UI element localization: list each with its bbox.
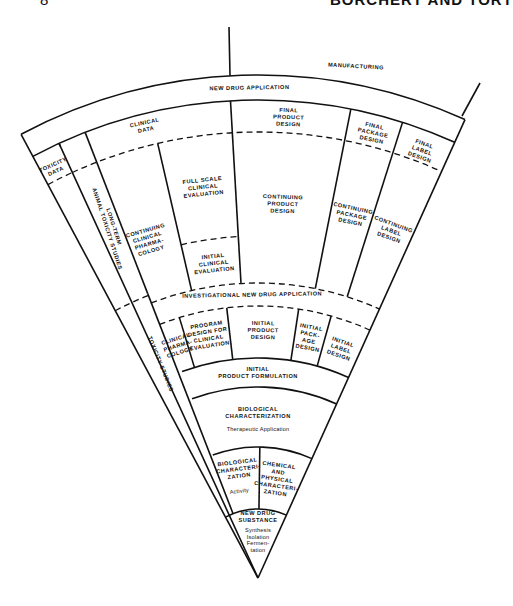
new-drug-substance-label: NEW DRUGSUBSTANCE <box>239 510 278 523</box>
initial-product-formulation-label: INITIALPRODUCT FORMULATION <box>218 366 298 379</box>
program-design-label: PROGRAMDESIGN FORCLINICALEVALUATION <box>186 319 230 352</box>
initial-row-divider-4 <box>317 316 331 366</box>
initial-product-design-label-line: DESIGN <box>251 334 276 340</box>
investigational-new-drug-application-label: INVESTIGATIONAL NEW DRUG APPLICATION <box>182 290 322 298</box>
therapeutic-application-label-line: Therapeutic Application <box>227 426 290 432</box>
activity-label: Activity <box>229 487 249 495</box>
synthesis-isolation-fermentation-label-line: tation <box>251 547 266 553</box>
initial-product-formulation-label-line: PRODUCT FORMULATION <box>218 373 298 379</box>
continuing-product-design-label-line: PRODUCT <box>267 200 298 207</box>
synthesis-isolation-fermentation-label-line: Isolation <box>247 534 270 540</box>
diagram-lines <box>21 27 480 578</box>
biological-characterization-activity-label: BIOLOGICALCHARACTERI-ZATION <box>215 456 261 481</box>
final-product-design-label-line: FINAL <box>279 107 298 114</box>
synthesis-isolation-fermentation-label-line: Fermen- <box>247 540 270 546</box>
new-drug-application-label-line: NEW DRUG APPLICATION <box>209 84 289 91</box>
investigational-new-drug-application-label-line: INVESTIGATIONAL NEW DRUG APPLICATION <box>182 290 322 298</box>
clinical-pharm-divider <box>158 143 192 290</box>
activity-label-line: Activity <box>229 487 249 495</box>
initial-label-design-label: INITIALLABELDESIGN <box>326 335 356 362</box>
initial-product-formulation-label-line: INITIAL <box>246 366 269 372</box>
final-product-design-label-line: PRODUCT <box>273 113 304 120</box>
manufacturing-right-line <box>462 83 480 116</box>
biological-characterization-therapeutic-label: BIOLOGICALCHARACTERIZATION <box>225 406 290 419</box>
therapeutic-application-label: Therapeutic Application <box>227 426 290 432</box>
initial-clinical-evaluation-label: INITIALCLINICALEVALUATION <box>193 251 235 275</box>
biological-characterization-therapeutic-label-line: CHARACTERIZATION <box>225 413 290 419</box>
clinical-eval-split-dashed-arc <box>181 237 238 245</box>
fan-left-edge <box>21 134 258 578</box>
fan-right-edge <box>258 120 465 578</box>
bio-char-inner-arc <box>213 447 312 459</box>
synthesis-isolation-fermentation-label-line: Synthesis <box>245 527 271 533</box>
initial-row-divider-2 <box>227 308 233 360</box>
new-drug-application-label: NEW DRUG APPLICATION <box>209 84 289 91</box>
page-number-fragment: 8 <box>40 0 49 8</box>
full-scale-clinical-evaluation-label: FULL SCALECLINICALEVALUATION <box>182 175 224 199</box>
manufacturing-label: MANUFACTURING <box>328 62 384 71</box>
clinical-product-divider <box>230 101 241 284</box>
synthesis-isolation-fermentation-label: SynthesisIsolationFermen-tation <box>245 527 271 553</box>
new-drug-substance-label-line: SUBSTANCE <box>239 517 278 523</box>
final-product-design-label: FINALPRODUCTDESIGN <box>273 106 305 127</box>
nda-inner-arc <box>33 100 455 156</box>
final-package-design-label: FINALPACKAGEDESIGN <box>356 120 391 146</box>
final-label-design-label: FINALLABELDESIGN <box>407 137 437 164</box>
initial-package-design-label-line: DESIGN <box>295 342 320 353</box>
initial-row-divider-3 <box>291 309 299 360</box>
formulation-inner-arc <box>192 387 337 404</box>
manufacturing-label-line: MANUFACTURING <box>328 62 384 71</box>
continuing-product-design-label-line: DESIGN <box>270 207 295 214</box>
final-product-design-label-line: DESIGN <box>276 121 301 128</box>
initial-package-design-label: INITIALPACK-AGEDESIGN <box>295 322 324 353</box>
initial-product-design-label-line: INITIAL <box>252 320 275 326</box>
biological-characterization-therapeutic-label-line: BIOLOGICAL <box>238 406 278 412</box>
clinical-data-label: CLINICALDATA <box>129 116 161 135</box>
initial-product-design-label-line: PRODUCT <box>248 327 279 334</box>
bio-chem-divider <box>259 447 260 509</box>
new-drug-substance-label-line: NEW DRUG <box>240 510 275 516</box>
running-head: BORCHERT AND TORT <box>330 0 513 8</box>
initial-product-design-label: INITIALPRODUCTDESIGN <box>247 320 279 341</box>
continuing-product-design-label: CONTINUINGPRODUCTDESIGN <box>262 193 303 214</box>
continuing-label-design-label: CONTINUINGLABELDESIGN <box>369 214 414 247</box>
manufacturing-divider-line <box>229 27 230 76</box>
continuing-package-design-label: CONTINUINGPACKAGEDESIGN <box>330 201 374 229</box>
